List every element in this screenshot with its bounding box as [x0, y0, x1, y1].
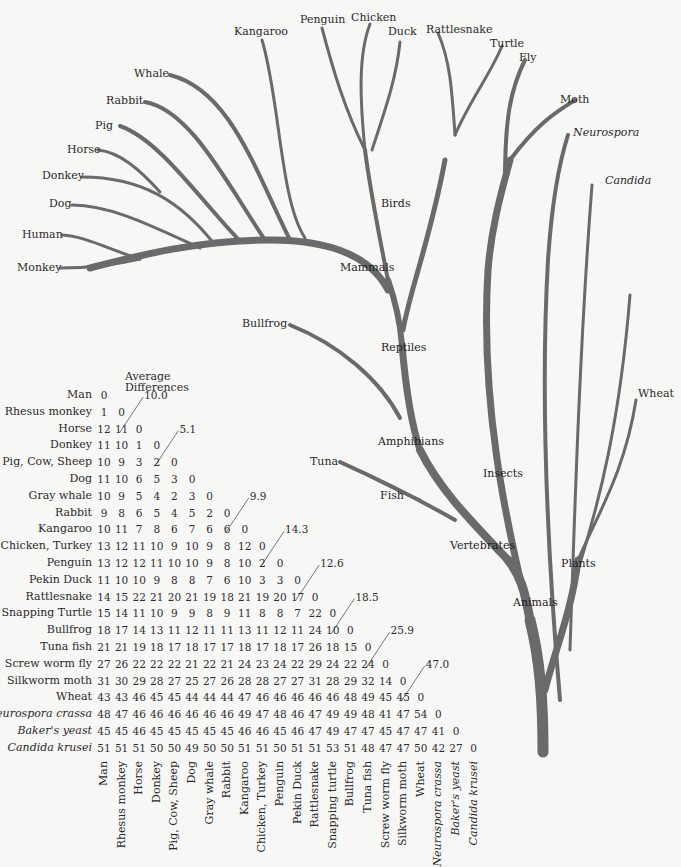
branch-pig	[120, 126, 240, 241]
leaf-penguin: Penguin	[300, 14, 345, 26]
leaf-wheat: Wheat	[638, 388, 674, 400]
branch-birds-stem	[403, 160, 445, 330]
leaf-duck: Duck	[388, 26, 417, 38]
branch-horse	[98, 150, 160, 192]
leaf-rattlesnake: Rattlesnake	[426, 24, 492, 36]
branch-bullfrog	[290, 325, 400, 418]
group-plants: Plants	[561, 558, 596, 570]
leaf-tuna: Tuna	[310, 456, 338, 468]
group-amphibians: Amphibians	[378, 436, 444, 448]
branch-chicken	[361, 24, 370, 150]
group-vertebrates: Vertebrates	[450, 540, 515, 552]
leaf-kangaroo: Kangaroo	[234, 26, 288, 38]
branch-candida	[570, 185, 592, 650]
group-insects: Insects	[483, 468, 523, 480]
leaf-pig: Pig	[95, 120, 113, 132]
leaf-horse: Horse	[67, 144, 101, 156]
leaf-monkey: Monkey	[17, 262, 61, 274]
leaf-candida: Candida	[605, 175, 651, 187]
leaf-dog: Dog	[49, 198, 71, 210]
leaf-donkey: Donkey	[42, 170, 84, 182]
leaf-human: Human	[22, 229, 63, 241]
branch-kangaroo	[262, 40, 305, 238]
leaf-whale: Whale	[134, 68, 169, 80]
branch-rattlesnake	[438, 33, 455, 135]
branch-yeast	[578, 295, 630, 570]
group-reptiles: Reptiles	[381, 342, 426, 354]
group-fish: Fish	[380, 490, 404, 502]
leaf-fly: Fly	[519, 52, 536, 64]
group-animals: Animals	[513, 597, 558, 609]
leaf-neurospora: Neurospora	[573, 127, 639, 139]
branch-human	[62, 235, 140, 259]
group-birds: Birds	[381, 198, 411, 210]
branch-rabbit	[145, 102, 265, 240]
branch-penguin	[322, 28, 365, 150]
leaf-chicken: Chicken	[351, 12, 396, 24]
branch-duck	[372, 42, 400, 150]
group-mammals: Mammals	[340, 262, 394, 274]
leaf-rabbit: Rabbit	[106, 95, 143, 107]
branch-donkey	[82, 177, 215, 245]
branch-trunk	[530, 620, 543, 752]
leaf-bullfrog: Bullfrog	[242, 318, 287, 330]
branch-turtle	[455, 46, 502, 135]
leaf-turtle: Turtle	[490, 38, 524, 50]
leaf-moth: Moth	[560, 94, 589, 106]
